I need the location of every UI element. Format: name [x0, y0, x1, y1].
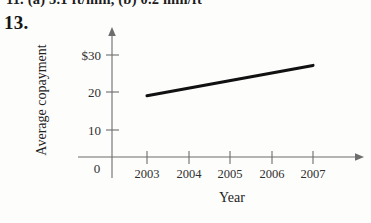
origin-label: 0: [94, 161, 101, 176]
x-tick-label-2003: 2003: [135, 167, 160, 181]
y-tick-label-30: $30: [82, 48, 102, 63]
y-tick-label-10: 10: [88, 123, 101, 138]
textbook-answer-page: 11. (a) 5.1 ft/min, (b) 0.2 min/ft 13. A…: [0, 0, 371, 223]
data-series-line: [147, 65, 313, 95]
x-tick-label-2006: 2006: [260, 167, 285, 181]
x-tick-label-2004: 2004: [177, 167, 203, 181]
x-tick-label-2005: 2005: [218, 167, 243, 181]
x-tick-label-2007: 2007: [301, 167, 326, 181]
y-tick-label-20: 20: [88, 85, 101, 100]
x-axis-title: Year: [219, 190, 245, 205]
y-axis-arrow-icon: [108, 27, 116, 36]
y-axis-title: Average copayment: [34, 44, 49, 155]
line-chart-figure: Average copayment $30 20 10 0: [0, 0, 371, 223]
x-axis-arrow-icon: [355, 153, 364, 161]
